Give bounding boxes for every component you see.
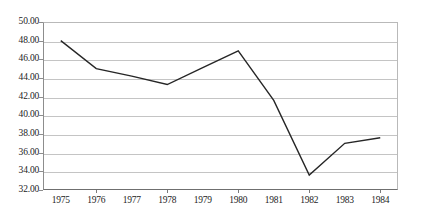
y-tick-mark	[39, 78, 43, 79]
y-tick-mark	[39, 41, 43, 42]
y-tick-label: 50.00	[0, 17, 39, 27]
y-tick-label: 36.00	[0, 148, 39, 158]
y-tick-label: 42.00	[0, 92, 39, 102]
y-tick-mark	[39, 171, 43, 172]
y-tick-label: 32.00	[0, 185, 39, 195]
x-tick-mark	[380, 190, 381, 193]
y-tick-mark	[39, 115, 43, 116]
gridline	[44, 42, 397, 43]
y-tick-label: 38.00	[0, 129, 39, 139]
line-chart: 50.0048.0046.0044.0042.0040.0038.0036.00…	[0, 0, 423, 219]
gridline	[44, 172, 397, 173]
y-tick-mark	[39, 97, 43, 98]
y-tick-label: 44.00	[0, 73, 39, 83]
gridline	[44, 135, 397, 136]
x-tick-mark	[96, 190, 97, 193]
x-tick-mark	[238, 190, 239, 193]
plot-area	[43, 22, 398, 190]
gridline	[44, 79, 397, 80]
y-tick-mark	[39, 22, 43, 23]
y-tick-mark	[39, 59, 43, 60]
y-tick-mark	[39, 190, 43, 191]
y-tick-label: 34.00	[0, 166, 39, 176]
y-tick-label: 48.00	[0, 36, 39, 46]
y-tick-mark	[39, 134, 43, 135]
x-tick-mark	[167, 190, 168, 193]
gridline	[44, 60, 397, 61]
x-tick-label: 1984	[358, 196, 402, 206]
y-tick-label: 40.00	[0, 110, 39, 120]
gridline	[44, 98, 397, 99]
y-tick-mark	[39, 153, 43, 154]
gridline	[44, 154, 397, 155]
gridline	[44, 116, 397, 117]
x-tick-mark	[309, 190, 310, 193]
y-tick-label: 46.00	[0, 54, 39, 64]
